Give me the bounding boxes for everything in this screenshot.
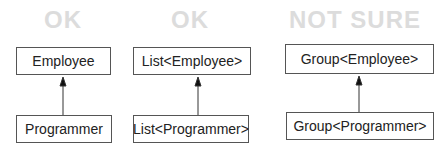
arrow-head-icon	[356, 76, 362, 85]
inheritance-arrows	[0, 0, 446, 153]
arrow-head-icon	[60, 77, 66, 86]
arrow-head-icon	[195, 77, 201, 86]
